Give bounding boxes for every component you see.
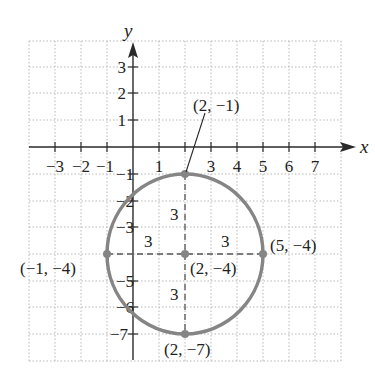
x-tick-label: −2	[72, 157, 90, 176]
x-tick-label: −1	[96, 157, 114, 176]
y-axis-label: y	[122, 20, 133, 41]
grid	[29, 41, 341, 361]
radius-label-up: 3	[170, 205, 179, 224]
y-tick-label: −5	[116, 272, 134, 291]
y-tick-label: 1	[118, 111, 127, 130]
point-left	[103, 250, 111, 258]
radius-label-left: 3	[144, 232, 153, 251]
y-tick-label: −1	[116, 165, 134, 184]
circle-graph: y x −3 −2 −1 1 3 4 5 6 7 3 2 1 −1 −2 −3 …	[0, 0, 375, 376]
point-bottom	[181, 330, 189, 338]
y-tick-label: 3	[118, 58, 127, 77]
axes	[29, 52, 345, 360]
x-tick-label: −3	[46, 157, 64, 176]
x-tick-label: 4	[233, 157, 242, 176]
y-tick-label: −7	[110, 325, 129, 344]
x-tick-label: 7	[311, 157, 320, 176]
x-tick-label: 3	[207, 157, 216, 176]
point-label-left: (−1, −4)	[20, 259, 76, 278]
leader-line	[186, 113, 205, 172]
radius-label-down: 3	[170, 285, 179, 304]
y-tick-label: 2	[118, 84, 127, 103]
point-top	[181, 170, 189, 178]
x-tick-label: 5	[259, 157, 268, 176]
point-label-top: (2, −1)	[193, 96, 239, 115]
point-right	[259, 250, 267, 258]
x-tick-label: 6	[285, 157, 294, 176]
point-center	[181, 250, 189, 258]
x-axis-label: x	[359, 136, 369, 157]
x-tick-label: 1	[155, 157, 164, 176]
radius-label-right: 3	[221, 232, 230, 251]
point-label-bottom: (2, −7)	[164, 340, 210, 359]
point-label-right: (5, −4)	[270, 236, 316, 255]
y-tick-label: −3	[116, 218, 134, 237]
point-label-center: (2, −4)	[190, 259, 236, 278]
